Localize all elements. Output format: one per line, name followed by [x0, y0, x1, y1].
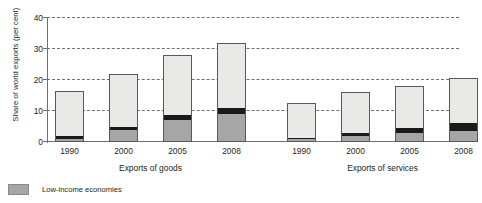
bar-segment-low-income-economies	[217, 114, 246, 142]
bar-exports-of-services-1990[interactable]	[287, 103, 316, 142]
y-tick-label-40: 40	[23, 14, 43, 23]
bar-exports-of-goods-2008[interactable]	[217, 43, 246, 142]
bar-exports-of-goods-2005[interactable]	[163, 55, 192, 142]
bar-segment-upper-segment	[287, 103, 316, 138]
figure-title: Figure 1 Share of developing and transit…	[8, 0, 459, 3]
legend-label-low-income: Low-income economies	[42, 185, 122, 194]
x-tick-label-exports-of-goods-2000: 2000	[102, 146, 146, 156]
bar-exports-of-services-2008[interactable]	[449, 78, 478, 142]
x-tick-label-exports-of-services-2008: 2008	[442, 146, 482, 156]
y-tick-label-20: 20	[23, 76, 43, 85]
y-axis-ticks: 010203040	[19, 18, 43, 142]
legend-swatch-low-income	[8, 184, 29, 195]
chart-legend: Low-income economies	[8, 184, 122, 195]
x-tick-label-exports-of-goods-2005: 2005	[156, 146, 200, 156]
y-tick-label-30: 30	[23, 45, 43, 54]
bar-segment-low-income-economies	[109, 130, 138, 142]
bar-segment-upper-segment	[395, 86, 424, 128]
y-axis-title: Share of world exports (per cent)	[11, 1, 20, 129]
x-tick-label-exports-of-goods-2008: 2008	[210, 146, 254, 156]
bar-segment-low-income-economies	[163, 120, 192, 142]
bar-segment-upper-segment	[109, 74, 138, 127]
group-label-exports-of-goods: Exports of goods	[91, 163, 211, 173]
bar-segment-upper-segment	[341, 92, 370, 133]
bar-segment-upper-segment	[55, 91, 84, 136]
bar-segment-low-income-economies	[395, 133, 424, 142]
bar-segment-low-income-economies	[287, 139, 316, 142]
x-tick-label-exports-of-goods-1990: 1990	[48, 146, 92, 156]
y-tick-label-10: 10	[23, 107, 43, 116]
x-tick-label-exports-of-services-1990: 1990	[280, 146, 324, 156]
bar-exports-of-services-2000[interactable]	[341, 92, 370, 142]
x-tick-label-exports-of-services-2005: 2005	[388, 146, 432, 156]
bar-exports-of-services-2005[interactable]	[395, 86, 424, 142]
bar-segment-upper-segment	[217, 43, 246, 108]
bar-segment-middle-band	[449, 123, 478, 130]
gridline-40	[47, 17, 459, 18]
bar-segment-low-income-economies	[55, 139, 84, 142]
bar-exports-of-goods-1990[interactable]	[55, 91, 84, 142]
bar-segment-low-income-economies	[449, 131, 478, 142]
plot-area	[47, 18, 459, 142]
bar-segment-upper-segment	[449, 78, 478, 123]
group-label-exports-of-services: Exports of services	[323, 163, 443, 173]
bar-segment-low-income-economies	[341, 136, 370, 142]
x-tick-label-exports-of-services-2000: 2000	[334, 146, 378, 156]
y-tick-label-0: 0	[23, 138, 43, 147]
gridline-30	[47, 48, 459, 49]
bar-segment-upper-segment	[163, 55, 192, 115]
bar-exports-of-goods-2000[interactable]	[109, 74, 138, 142]
